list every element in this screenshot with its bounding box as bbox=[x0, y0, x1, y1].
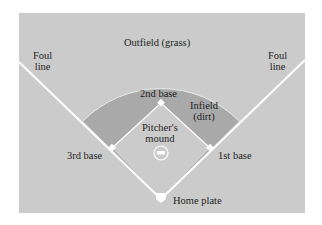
foul-line-left-label: Foul line bbox=[33, 50, 52, 72]
foul-line-right-label: Foul line bbox=[268, 50, 287, 72]
baseball-field-diagram bbox=[0, 0, 322, 225]
infield-label-line1: Infield bbox=[190, 100, 218, 111]
first-base-label: 1st base bbox=[218, 150, 252, 161]
pitchers-rubber-icon bbox=[157, 151, 165, 155]
pitchers-mound-label-line2: mound bbox=[142, 133, 178, 144]
foul-line-left-label-line1: Foul bbox=[33, 50, 52, 61]
second-base-label: 2nd base bbox=[140, 88, 177, 99]
foul-line-right-label-line2: line bbox=[268, 61, 287, 72]
foul-line-left-label-line2: line bbox=[33, 61, 52, 72]
infield-label-line2: (dirt) bbox=[190, 111, 218, 122]
third-base-label: 3rd base bbox=[67, 150, 102, 161]
pitchers-mound-label-line1: Pitcher's bbox=[142, 122, 178, 133]
home-plate-label: Home plate bbox=[173, 195, 222, 206]
foul-line-right-label-line1: Foul bbox=[268, 50, 287, 61]
outfield-label: Outfield (grass) bbox=[124, 37, 190, 48]
pitchers-mound-label: Pitcher's mound bbox=[142, 122, 178, 144]
infield-label: Infield (dirt) bbox=[190, 100, 218, 122]
